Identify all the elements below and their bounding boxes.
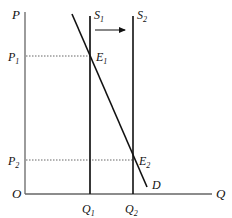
origin-label: O <box>12 186 22 201</box>
s2-label: S2 <box>137 8 147 24</box>
e1-label: E1 <box>95 50 107 66</box>
supply-demand-diagram: P Q O S1 S2 D E1 E2 P1 P2 Q1 Q2 <box>0 0 232 218</box>
p1-label: P1 <box>7 50 19 66</box>
demand-label: D <box>151 178 161 192</box>
q1-label: Q1 <box>82 202 95 218</box>
s1-label: S1 <box>94 8 104 24</box>
e2-label: E2 <box>138 154 150 170</box>
p2-label: P2 <box>7 154 19 170</box>
x-axis-label: Q <box>216 186 226 201</box>
y-axis-label: P <box>11 7 20 22</box>
demand-curve <box>72 14 147 187</box>
q2-label: Q2 <box>125 202 138 218</box>
